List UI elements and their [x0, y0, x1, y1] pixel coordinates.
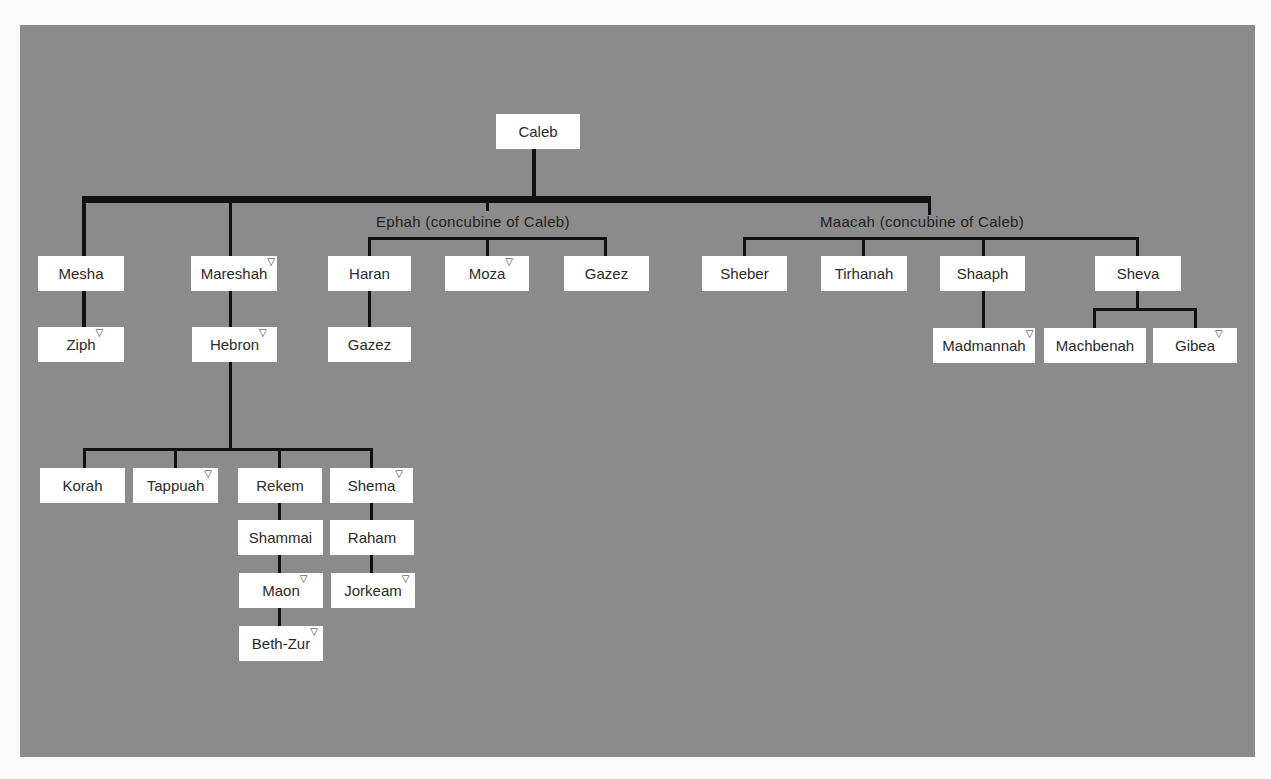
connector-line — [982, 237, 985, 256]
node-shema: Shema▽ — [330, 468, 413, 503]
node-label: Moza — [469, 265, 506, 282]
node-shammai: Shammai — [238, 520, 323, 555]
node-mareshah: Mareshah▽ — [191, 256, 277, 291]
node-rekem: Rekem — [238, 468, 322, 503]
node-label: Mesha — [58, 265, 103, 282]
node-label: Caleb — [518, 123, 557, 140]
node-sheva: Sheva — [1095, 256, 1181, 291]
node-raham: Raham — [330, 520, 414, 555]
connector-line — [83, 448, 86, 468]
node-tirhanah: Tirhanah — [821, 256, 907, 291]
node-label: Maon — [262, 582, 300, 599]
node-label: Gazez — [348, 336, 391, 353]
node-label: Shaaph — [957, 265, 1009, 282]
place-marker-icon: ▽ — [96, 328, 104, 338]
connector-line — [743, 237, 1139, 240]
node-ziph: Ziph▽ — [38, 327, 124, 362]
node-tappuah: Tappuah▽ — [133, 468, 218, 503]
caption-maacah: Maacah (concubine of Caleb) — [820, 213, 1024, 230]
connector-line — [368, 237, 371, 256]
connector-line — [743, 237, 746, 256]
node-label: Hebron — [210, 336, 259, 353]
node-maon: Maon▽ — [239, 573, 323, 608]
node-label: Rekem — [256, 477, 304, 494]
connector-line — [1093, 308, 1096, 328]
connector-line — [1136, 237, 1139, 256]
place-marker-icon: ▽ — [1026, 329, 1034, 339]
node-label: Mareshah — [201, 265, 268, 282]
connector-line — [1194, 308, 1197, 328]
node-caleb: Caleb — [496, 114, 580, 149]
connector-line — [486, 237, 489, 256]
connector-line — [82, 291, 86, 327]
node-label: Gibea — [1175, 337, 1215, 354]
node-hebron: Hebron▽ — [192, 327, 277, 362]
caption-ephah: Ephah (concubine of Caleb) — [376, 213, 570, 230]
place-marker-icon: ▽ — [1215, 329, 1223, 339]
node-jorkeam: Jorkeam▽ — [331, 573, 415, 608]
node-label: Jorkeam — [344, 582, 402, 599]
connector-line — [278, 448, 281, 468]
node-korah: Korah — [40, 468, 125, 503]
node-label: Shema — [348, 477, 396, 494]
node-beth-zur: Beth-Zur▽ — [239, 626, 323, 661]
node-label: Gazez — [585, 265, 628, 282]
connector-line — [174, 448, 177, 468]
connector-line — [862, 237, 865, 256]
connector-line — [229, 362, 232, 450]
connector-line — [486, 200, 489, 211]
place-marker-icon: ▽ — [259, 328, 267, 338]
node-label: Sheva — [1117, 265, 1160, 282]
node-sheber: Sheber — [702, 256, 787, 291]
node-gazez-son-of-haran: Gazez — [328, 327, 411, 362]
connector-line — [370, 503, 373, 520]
node-gazez: Gazez — [564, 256, 649, 291]
node-mesha: Mesha — [38, 256, 124, 291]
place-marker-icon: ▽ — [300, 574, 308, 584]
node-label: Haran — [349, 265, 390, 282]
connector-line — [278, 503, 281, 520]
node-label: Ziph — [66, 336, 95, 353]
place-marker-icon: ▽ — [204, 469, 212, 479]
node-label: Shammai — [249, 529, 312, 546]
connector-line — [278, 555, 281, 573]
node-label: Raham — [348, 529, 396, 546]
connector-line — [982, 291, 985, 328]
place-marker-icon: ▽ — [505, 257, 513, 267]
connector-line — [82, 200, 86, 256]
node-label: Korah — [62, 477, 102, 494]
place-marker-icon: ▽ — [402, 574, 410, 584]
node-label: Tirhanah — [835, 265, 894, 282]
node-label: Tappuah — [147, 477, 205, 494]
diagram-panel — [20, 25, 1255, 757]
place-marker-icon: ▽ — [310, 627, 318, 637]
place-marker-icon: ▽ — [267, 257, 275, 267]
node-haran: Haran — [328, 256, 411, 291]
node-machbenah: Machbenah — [1044, 328, 1146, 363]
connector-line — [532, 149, 536, 198]
node-gibea: Gibea▽ — [1153, 328, 1237, 363]
node-label: Madmannah — [942, 337, 1025, 354]
connector-line — [370, 555, 373, 573]
connector-line — [368, 291, 371, 327]
connector-line — [82, 196, 931, 203]
node-moza: Moza▽ — [445, 256, 529, 291]
connector-line — [604, 237, 607, 256]
connector-line — [229, 200, 232, 256]
connector-line — [1093, 308, 1197, 311]
place-marker-icon: ▽ — [395, 469, 403, 479]
node-label: Beth-Zur — [252, 635, 310, 652]
node-label: Machbenah — [1056, 337, 1134, 354]
connector-line — [83, 448, 373, 451]
connector-line — [229, 291, 232, 327]
node-label: Sheber — [720, 265, 768, 282]
connector-line — [278, 608, 281, 626]
connector-line — [370, 448, 373, 468]
node-shaaph: Shaaph — [940, 256, 1025, 291]
node-madmannah: Madmannah▽ — [933, 328, 1035, 363]
